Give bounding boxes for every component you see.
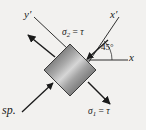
stress-element-figure: y′ x′ x 45° σ2 = τ σ1 = τ sp. bbox=[0, 0, 146, 130]
figure-caption-fragment: sp. bbox=[2, 104, 16, 116]
figure-canvas bbox=[0, 0, 146, 130]
arrow-sigma1-tension-upper-left bbox=[28, 35, 55, 57]
sigma-1-subscript: 1 bbox=[93, 110, 96, 117]
arrow-sigma2-compression-lower-left bbox=[22, 83, 53, 112]
sigma-1-value: τ bbox=[106, 106, 109, 116]
axis-label-x: x bbox=[129, 52, 134, 63]
angle-label-45: 45° bbox=[101, 43, 114, 52]
stress-label-sigma-2: σ2 = τ bbox=[62, 28, 84, 38]
axis-label-x-prime: x′ bbox=[110, 9, 117, 20]
axis-label-y-prime: y′ bbox=[24, 9, 31, 20]
sigma-1-equals: = bbox=[98, 106, 103, 116]
stress-label-sigma-1: σ1 = τ bbox=[88, 107, 110, 117]
sigma-2-value: τ bbox=[80, 27, 83, 37]
sigma-2-subscript: 2 bbox=[67, 31, 70, 38]
arrow-sigma1-tension-lower-right bbox=[88, 82, 110, 104]
stress-element-square bbox=[44, 44, 96, 96]
sigma-2-equals: = bbox=[72, 27, 77, 37]
